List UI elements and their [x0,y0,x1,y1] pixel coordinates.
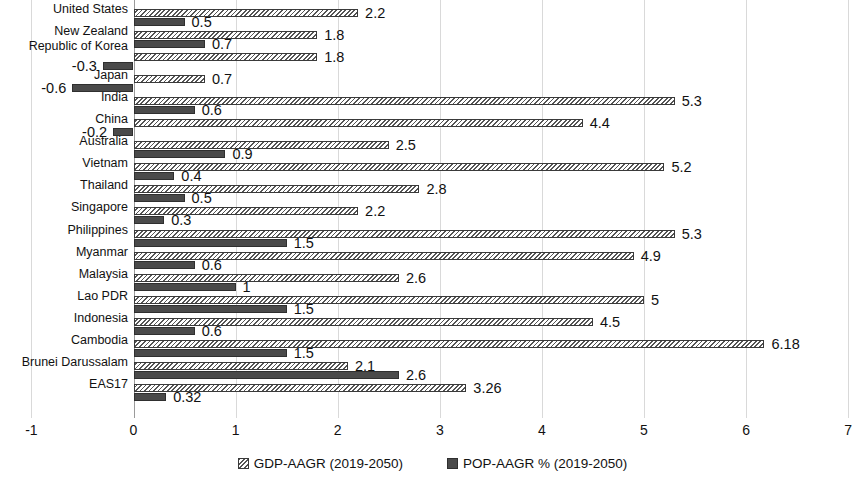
bar-gdp [134,362,348,370]
value-label-pop: 1.5 [294,302,314,317]
bar-gdp [134,9,359,17]
value-label-gdp: 2.6 [406,271,426,286]
value-label-pop: 0.7 [212,37,232,52]
category-label: United States [0,3,134,16]
bar-gdp [134,119,583,127]
category-label: Lao PDR [0,290,134,303]
value-label-gdp: 2.5 [396,138,416,153]
value-label-gdp: 5 [651,293,659,308]
value-label-gdp: 2.2 [365,6,385,21]
value-label-pop: 0.4 [181,169,201,184]
chart-legend: GDP-AAGR (2019-2050)POP-AAGR % (2019-205… [0,451,865,475]
value-label-gdp: 0.7 [212,72,232,87]
value-label-pop: 1 [243,280,251,295]
bar-gdp [134,207,359,215]
value-label-gdp: 5.3 [682,227,702,242]
pop-swatch-icon [447,458,458,469]
bar-pop [134,283,236,291]
value-label-gdp: 1.8 [324,50,344,65]
x-tick-label: 3 [436,422,444,438]
value-label-gdp: 4.9 [641,249,661,264]
value-label-gdp: 2.1 [355,359,375,374]
bar-pop [134,150,226,158]
category-label: Philippines [0,224,134,237]
value-label-gdp: 1.8 [324,28,344,43]
value-label-gdp: 3.26 [473,381,501,396]
category-label: China [0,113,134,126]
bar-pop [134,40,205,48]
bar-gdp [134,230,675,238]
value-label-pop: 0.9 [232,147,252,162]
value-label-gdp: 5.2 [671,160,691,175]
value-label-pop: 0.6 [202,258,222,273]
bar-pop [134,239,287,247]
bar-pop [134,261,195,269]
bar-gdp [134,163,665,171]
value-label-gdp: 2.8 [426,182,446,197]
value-label-gdp: 4.5 [600,315,620,330]
value-label-pop: 1.5 [294,236,314,251]
bar-pop [134,393,167,401]
category-label: Australia [0,135,134,148]
category-label: Indonesia [0,312,134,325]
legend-item-gdp[interactable]: GDP-AAGR (2019-2050) [238,456,403,471]
value-label-gdp: 6.18 [771,337,799,352]
category-label: Brunei Darussalam [0,356,134,369]
category-label: EAS17 [0,378,134,391]
category-label: Myanmar [0,246,134,259]
value-label-pop: 0.3 [171,213,191,228]
category-label: Vietnam [0,157,134,170]
plot-area: United States2.20.5New Zealand1.80.7Repu… [0,0,865,418]
value-label-pop: 0.6 [202,324,222,339]
bar-gdp [134,185,420,193]
category-label: New Zealand [0,25,134,38]
bar-pop [134,18,185,26]
value-label-pop: 0.32 [173,390,201,405]
bar-gdp [134,53,318,61]
bar-pop [134,194,185,202]
x-tick-label: 6 [742,422,750,438]
category-label: Cambodia [0,334,134,347]
bar-gdp [134,141,389,149]
x-tick-label: 0 [130,422,138,438]
bar-pop [134,106,195,114]
category-label: Republic of Korea [0,40,134,53]
x-tick-label: -1 [25,422,37,438]
legend-label: POP-AAGR % (2019-2050) [463,456,627,471]
category-label: Malaysia [0,268,134,281]
bar-chart: United States2.20.5New Zealand1.80.7Repu… [0,0,865,479]
bar-gdp [134,296,645,304]
value-label-gdp: 5.3 [682,94,702,109]
bar-pop [134,305,287,313]
x-tick-label: 1 [232,422,240,438]
gdp-swatch-icon [238,458,249,469]
x-axis: -101234567 [0,418,865,448]
x-tick-label: 2 [334,422,342,438]
value-label-gdp: 2.2 [365,204,385,219]
bar-pop [134,172,175,180]
value-label-pop: 0.5 [192,191,212,206]
category-label: India [0,91,134,104]
bar-gdp [134,340,765,348]
category-label: Japan [0,69,134,82]
value-label-pop: 2.6 [406,368,426,383]
x-tick-label: 5 [640,422,648,438]
legend-item-pop[interactable]: POP-AAGR % (2019-2050) [447,456,627,471]
legend-label: GDP-AAGR (2019-2050) [254,456,403,471]
bar-pop [134,327,195,335]
category-label: Thailand [0,179,134,192]
chart-row: EAS173.260.32 [0,382,865,404]
bar-pop [134,349,287,357]
value-label-pop: 0.5 [192,15,212,30]
bar-pop [134,216,165,224]
value-label-pop: 0.6 [202,103,222,118]
category-label: Singapore [0,201,134,214]
value-label-pop: 1.5 [294,346,314,361]
bar-gdp [134,274,399,282]
value-label-gdp: 4.4 [590,116,610,131]
bar-gdp [134,75,205,83]
x-tick-label: 4 [538,422,546,438]
x-tick-label: 7 [844,422,852,438]
